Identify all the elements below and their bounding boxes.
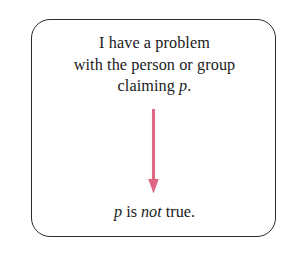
conclusion-text-middle: is [122, 203, 141, 221]
premise-text: I have a problem with the person or grou… [32, 33, 277, 98]
conclusion-variable-p: p [114, 203, 122, 221]
premise-line-3: claiming p. [32, 76, 277, 98]
premise-line-2: with the person or group [32, 55, 277, 77]
premise-line-1: I have a problem [32, 33, 277, 55]
premise-line-3-prefix: claiming [118, 77, 180, 95]
argument-box: I have a problem with the person or grou… [31, 19, 276, 237]
diagram-canvas: I have a problem with the person or grou… [0, 0, 290, 255]
conclusion-text-end: true. [162, 203, 195, 221]
premise-line-3-suffix: . [187, 77, 191, 95]
conclusion-emphasis-not: not [141, 203, 162, 221]
conclusion-text: p is not true. [32, 202, 277, 224]
